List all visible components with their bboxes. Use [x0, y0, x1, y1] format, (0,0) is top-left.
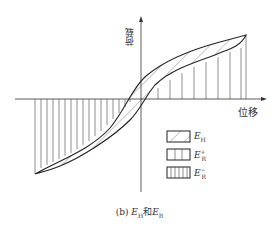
er-minus-hatching [35, 99, 130, 174]
legend-swatch-er-plus [167, 149, 190, 160]
legend-swatch-er-minus [167, 167, 190, 178]
legend-label-er-minus: E−R [194, 166, 206, 180]
legend-label-er-plus: E+R [194, 148, 206, 162]
x-axis-label: 位移 [238, 104, 258, 119]
legend-label-eh: EH [194, 131, 206, 143]
figure-caption: (b) EH和ER [0, 205, 279, 219]
hysteresis-loop [35, 35, 246, 174]
legend-swatch-eh [167, 131, 190, 142]
legend [167, 131, 190, 178]
y-axis-label: 荷载 [122, 28, 135, 46]
